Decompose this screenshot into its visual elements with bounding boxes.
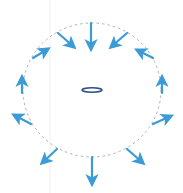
force-diagram	[0, 0, 183, 193]
arrow-right-lower-icon	[153, 116, 171, 124]
arrow-left-upper-icon	[33, 49, 48, 58]
arrow-right-upper-icon	[137, 50, 153, 58]
arrows-group	[14, 23, 171, 184]
center-loop-icon	[82, 88, 102, 92]
arrow-top-right-icon	[111, 33, 127, 47]
arrow-left-lower-icon	[14, 115, 31, 124]
arrow-bottom-right-icon	[127, 149, 143, 163]
diagram-svg	[0, 0, 183, 193]
arrow-top-left-icon	[58, 33, 74, 47]
